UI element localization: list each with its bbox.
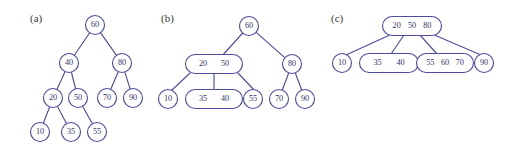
tree-edge	[282, 72, 289, 91]
node-rounded-rect	[186, 55, 243, 74]
tree-edge	[74, 32, 90, 56]
tree-diagram-figure: 60408020507090103555(a)60205080103540557…	[0, 0, 522, 156]
tree-node[interactable]: 90	[296, 90, 315, 109]
tree-edge	[57, 106, 67, 125]
node-key: 70	[275, 94, 283, 103]
tree-node[interactable]: 3540	[360, 54, 419, 73]
node-key: 50	[408, 21, 416, 30]
node-key: 70	[103, 93, 111, 102]
tree-edge	[238, 73, 255, 91]
edge-group	[346, 34, 481, 55]
node-key: 80	[288, 59, 296, 68]
node-key: 90	[301, 94, 309, 103]
node-key: 90	[129, 93, 137, 102]
node-key: 60	[441, 58, 449, 67]
node-key: 70	[456, 58, 464, 67]
node-key: 35	[373, 58, 381, 67]
tree-node[interactable]: 10	[159, 90, 178, 109]
tree-edge	[171, 73, 190, 91]
node-key: 20	[49, 93, 57, 102]
tree-node[interactable]: 90	[124, 89, 143, 108]
figure-canvas: 60408020507090103555(a)60205080103540557…	[0, 0, 522, 156]
tree-edge	[125, 71, 131, 90]
tree-edge	[71, 71, 76, 90]
node-rounded-rect	[186, 90, 243, 109]
node-key: 55	[249, 94, 257, 103]
tree-edge	[420, 35, 437, 54]
tree-node[interactable]: 70	[98, 89, 117, 108]
node-key: 80	[118, 58, 126, 67]
tree-node[interactable]: 3540	[186, 90, 243, 109]
tree-node[interactable]: 2050	[186, 55, 243, 74]
node-key: 50	[221, 59, 229, 68]
node-key: 35	[199, 94, 207, 103]
node-key: 35	[67, 127, 75, 136]
tree-node[interactable]: 20	[44, 89, 63, 108]
tree-edge	[110, 71, 118, 90]
panel-c: 20508010354055607090(c)	[331, 12, 494, 73]
tree-node[interactable]: 10	[333, 54, 352, 73]
node-key: 50	[74, 93, 82, 102]
tree-node[interactable]: 35	[62, 123, 81, 142]
tree-node[interactable]: 556070	[417, 54, 474, 73]
tree-edge	[295, 72, 302, 91]
node-key: 40	[221, 94, 229, 103]
node-key: 80	[423, 21, 431, 30]
tree-edge	[82, 105, 93, 124]
node-key: 55	[93, 127, 101, 136]
tree-node[interactable]: 90	[475, 54, 494, 73]
tree-node[interactable]: 55	[88, 123, 107, 142]
node-key: 55	[426, 58, 434, 67]
tree-edge	[432, 34, 481, 55]
tree-node[interactable]: 50	[69, 89, 88, 108]
tree-node[interactable]: 80	[113, 54, 132, 73]
tree-node[interactable]: 60	[86, 16, 105, 35]
node-key: 40	[396, 58, 404, 67]
panel-label-c: (c)	[331, 12, 344, 25]
tree-node[interactable]: 60	[240, 17, 259, 36]
tree-edge	[346, 34, 392, 55]
panel-label-b: (b)	[161, 12, 174, 25]
tree-edge	[100, 32, 117, 56]
node-key: 10	[164, 94, 172, 103]
node-rounded-rect	[360, 54, 419, 73]
tree-node[interactable]: 55	[244, 90, 263, 109]
tree-edge	[43, 106, 50, 124]
node-key: 10	[36, 127, 44, 136]
panel-b: 60205080103540557090(b)	[159, 12, 315, 109]
node-key: 90	[480, 58, 488, 67]
tree-node[interactable]: 80	[283, 55, 302, 74]
node-key: 20	[393, 21, 401, 30]
panel-a: 60408020507090103555(a)	[30, 12, 143, 142]
node-key: 10	[338, 58, 346, 67]
tree-edge	[255, 32, 285, 59]
node-key: 20	[199, 59, 207, 68]
tree-node[interactable]: 40	[60, 54, 79, 73]
tree-node[interactable]: 70	[270, 90, 289, 109]
node-key: 40	[65, 58, 73, 67]
tree-node[interactable]: 205080	[383, 17, 442, 36]
tree-node[interactable]: 10	[31, 123, 50, 142]
node-key: 60	[91, 20, 99, 29]
tree-edge	[57, 71, 66, 91]
tree-edge	[391, 35, 404, 54]
node-key: 60	[245, 21, 253, 30]
panel-label-a: (a)	[30, 12, 43, 25]
edge-group	[43, 32, 130, 125]
